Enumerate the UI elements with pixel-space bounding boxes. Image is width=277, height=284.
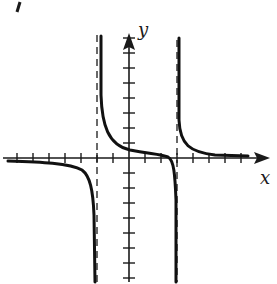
- curve-right-branch: [179, 38, 248, 156]
- curve-middle-branch: [101, 36, 176, 282]
- curve-left-branch: [8, 161, 95, 282]
- stray-mark: [17, 2, 20, 12]
- x-axis-label: x: [260, 167, 270, 188]
- y-axis-label: y: [137, 19, 149, 40]
- rational-function-graph: y x: [0, 0, 277, 284]
